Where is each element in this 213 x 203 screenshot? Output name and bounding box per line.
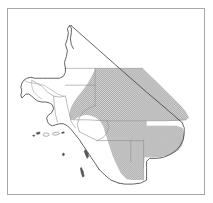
figure-container: Desert region (shaded) Coastal region (u… [0,0,213,203]
island-san-nicolas [33,135,35,136]
map-svg [8,9,204,194]
figure-caption-fragment [0,0,213,5]
map-frame [7,8,205,195]
island-santa-barbara [62,153,64,156]
island-santa-rosa [43,133,49,136]
